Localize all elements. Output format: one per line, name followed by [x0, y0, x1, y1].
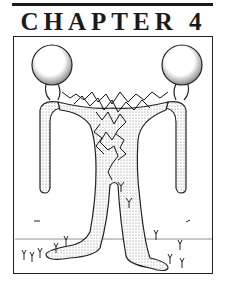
left-head	[32, 45, 72, 100]
figure-body	[40, 102, 186, 271]
illustration	[0, 0, 227, 289]
right-head	[162, 45, 202, 100]
